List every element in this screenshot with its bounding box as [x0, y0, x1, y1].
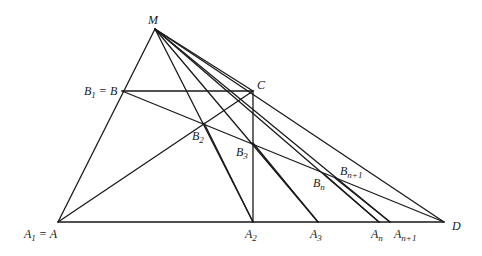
- segment-M-D: [155, 29, 444, 222]
- segment-M-C: [155, 29, 253, 91]
- label-A1-eq-A: A1 = A: [23, 227, 58, 243]
- label-M: M: [147, 13, 159, 27]
- segment-Bn-An: [324, 174, 379, 222]
- label-An: An: [370, 227, 383, 243]
- label-An1: An+1: [393, 227, 416, 243]
- segment-B-D: [122, 91, 444, 222]
- label-C: C: [257, 78, 266, 92]
- label-B3: B3: [236, 145, 248, 161]
- labels-group: M B1 = B C A1 = A A2 A3 An An+1 D B2 B3 …: [23, 13, 461, 243]
- segments-group: [58, 29, 444, 222]
- label-B1-eq-B: B1 = B: [84, 84, 118, 100]
- label-D: D: [451, 219, 461, 233]
- segment-B2-A2: [204, 123, 253, 222]
- label-Bn1: Bn+1: [340, 164, 362, 180]
- label-Bn: Bn: [313, 176, 325, 192]
- label-A2: A2: [244, 227, 257, 243]
- segment-Bn1-An1: [335, 178, 390, 222]
- segment-M-A: [58, 29, 155, 222]
- geometry-diagram: M B1 = B C A1 = A A2 A3 An An+1 D B2 B3 …: [0, 0, 482, 256]
- label-B2: B2: [192, 129, 204, 145]
- label-A3: A3: [309, 227, 322, 243]
